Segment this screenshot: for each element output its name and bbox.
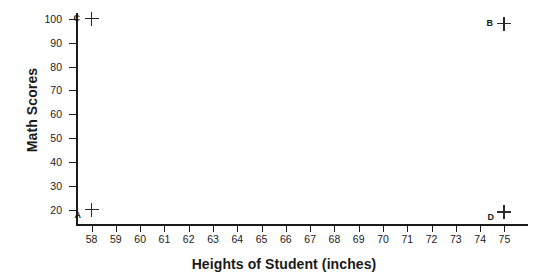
- data-point-label: D: [487, 213, 494, 222]
- y-tick-mark: [69, 67, 76, 68]
- y-tick-50: 50: [0, 133, 76, 143]
- x-tick-mark: [383, 226, 384, 232]
- x-tick-label-73: 73: [444, 234, 468, 245]
- x-tick-label-63: 63: [201, 234, 225, 245]
- x-tick-label-74: 74: [468, 234, 492, 245]
- x-tick-mark: [359, 226, 360, 232]
- y-tick-label: 60: [32, 109, 62, 119]
- y-tick-label: 80: [32, 62, 62, 72]
- x-tick-label-71: 71: [395, 234, 419, 245]
- y-tick-70: 70: [0, 85, 76, 95]
- y-tick-40: 40: [0, 157, 76, 167]
- x-tick-label-69: 69: [347, 234, 371, 245]
- x-tick-label-66: 66: [274, 234, 298, 245]
- x-tick-mark: [116, 226, 117, 232]
- y-tick-80: 80: [0, 62, 76, 72]
- y-axis-line: [76, 13, 78, 226]
- x-tick-label-68: 68: [322, 234, 346, 245]
- x-tick-label-67: 67: [298, 234, 322, 245]
- x-tick-mark: [480, 226, 481, 232]
- x-tick-label-70: 70: [371, 234, 395, 245]
- y-tick-label: 30: [32, 181, 62, 191]
- x-axis-title: Heights of Student (inches): [0, 256, 538, 272]
- y-tick-mark: [69, 138, 76, 139]
- y-tick-mark: [69, 90, 76, 91]
- x-tick-label-61: 61: [152, 234, 176, 245]
- plus-marker-icon: [85, 12, 99, 26]
- x-tick-mark: [262, 226, 263, 232]
- y-tick-label: 40: [32, 157, 62, 167]
- x-tick-label-65: 65: [250, 234, 274, 245]
- x-tick-mark: [310, 226, 311, 232]
- x-tick-mark: [164, 226, 165, 232]
- x-tick-label-75: 75: [492, 234, 516, 245]
- x-tick-mark: [456, 226, 457, 232]
- plus-marker-icon: [497, 17, 511, 31]
- y-tick-label: 70: [32, 85, 62, 95]
- data-point-label: C: [74, 14, 81, 23]
- y-tick-mark: [69, 162, 76, 163]
- x-tick-mark: [407, 226, 408, 232]
- data-point-label: B: [486, 19, 493, 28]
- y-tick-30: 30: [0, 181, 76, 191]
- y-tick-90: 90: [0, 38, 76, 48]
- y-tick-mark: [69, 186, 76, 187]
- y-tick-label: 90: [32, 38, 62, 48]
- x-tick-mark: [140, 226, 141, 232]
- x-tick-mark: [189, 226, 190, 232]
- y-tick-100: 100: [0, 14, 76, 24]
- x-tick-mark: [286, 226, 287, 232]
- x-tick-label-62: 62: [177, 234, 201, 245]
- x-axis-line: [76, 224, 528, 226]
- y-tick-label: 20: [32, 205, 62, 215]
- x-tick-mark: [432, 226, 433, 232]
- x-tick-mark: [237, 226, 238, 232]
- y-tick-60: 60: [0, 109, 76, 119]
- y-tick-label: 50: [32, 133, 62, 143]
- x-tick-label-59: 59: [104, 234, 128, 245]
- plus-marker-icon: [85, 203, 99, 217]
- scatter-plot: Math Scores 2030405060708090100 58596061…: [0, 0, 538, 279]
- x-tick-mark: [504, 226, 505, 232]
- plus-marker-icon: [497, 205, 511, 219]
- y-tick-mark: [69, 114, 76, 115]
- y-tick-mark: [69, 43, 76, 44]
- y-tick-label: 100: [32, 14, 62, 24]
- data-point-label: A: [75, 211, 82, 220]
- x-tick-mark: [334, 226, 335, 232]
- x-tick-mark: [92, 226, 93, 232]
- y-tick-20: 20: [0, 205, 76, 215]
- x-tick-label-58: 58: [80, 234, 104, 245]
- x-tick-label-64: 64: [225, 234, 249, 245]
- x-tick-label-60: 60: [128, 234, 152, 245]
- x-tick-label-72: 72: [420, 234, 444, 245]
- x-tick-mark: [213, 226, 214, 232]
